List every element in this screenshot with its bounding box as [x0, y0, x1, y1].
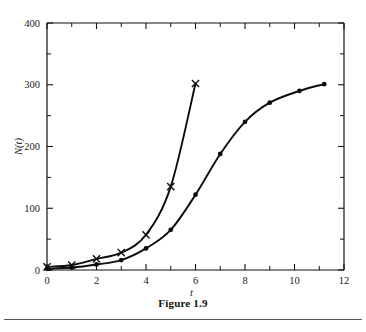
bottom-divider: [4, 319, 362, 320]
series-exponential-growth: [43, 80, 199, 271]
axis-spines: [47, 23, 344, 270]
data-point-marker: [267, 100, 272, 105]
data-point-marker: [45, 266, 50, 271]
data-point-marker: [142, 231, 149, 238]
x-tick-label: 12: [339, 275, 350, 286]
x-tick-label: 10: [289, 275, 300, 286]
data-point-marker: [94, 262, 99, 267]
data-point-marker: [297, 89, 302, 94]
x-tick-label: 8: [242, 275, 247, 286]
x-tick-label: 0: [44, 275, 49, 286]
data-point-marker: [69, 265, 74, 270]
data-point-marker: [218, 152, 223, 157]
data-point-marker: [118, 249, 125, 256]
x-tick-label: 4: [143, 275, 149, 286]
chart-canvas: 0246810120100200300400 tN(t): [0, 0, 366, 332]
y-tick-label: 400: [24, 18, 40, 29]
series-group: [43, 80, 326, 271]
x-tick-label: 6: [193, 275, 198, 286]
data-point-marker: [119, 258, 124, 263]
y-tick-label: 300: [24, 79, 40, 90]
tick-labels-group: 0246810120100200300400: [24, 18, 349, 286]
data-point-marker: [168, 227, 173, 232]
data-point-marker: [144, 246, 149, 251]
figure-caption: Figure 1.9: [0, 297, 366, 309]
y-tick-label: 100: [24, 203, 40, 214]
y-tick-label: 200: [24, 141, 40, 152]
x-tick-label: 2: [94, 275, 99, 286]
y-axis-title: N(t): [13, 138, 25, 156]
data-point-marker: [193, 192, 198, 197]
ticks-group: [47, 23, 344, 270]
series-line: [47, 84, 324, 269]
y-tick-label: 0: [35, 265, 40, 276]
axis-titles-group: tN(t): [13, 138, 194, 298]
series-logistic-growth: [45, 82, 327, 271]
series-line: [47, 84, 196, 267]
axes-group: [47, 23, 344, 270]
figure-container: 0246810120100200300400 tN(t) Figure 1.9: [0, 0, 366, 332]
data-point-marker: [322, 82, 327, 87]
data-point-marker: [243, 119, 248, 124]
